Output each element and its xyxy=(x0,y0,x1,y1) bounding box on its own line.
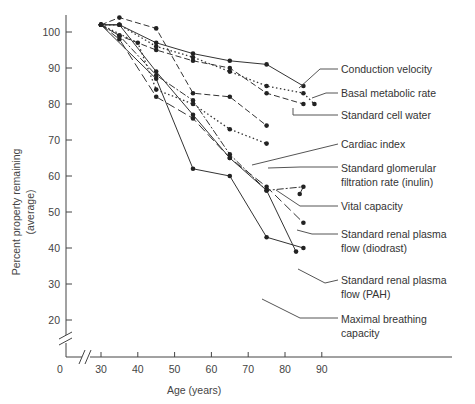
data-point-marker xyxy=(264,91,269,96)
y-tick-label: 100 xyxy=(42,26,60,38)
y-tick-label: 20 xyxy=(48,314,60,326)
leader-line xyxy=(268,167,338,168)
series-2 xyxy=(99,23,306,107)
x-tick-label: 80 xyxy=(279,363,291,375)
data-point-marker xyxy=(301,221,306,226)
legend-entry: Conduction velocity xyxy=(299,63,433,88)
legend-label: Conduction velocity xyxy=(341,63,433,75)
data-point-marker xyxy=(99,23,104,28)
data-point-marker xyxy=(301,246,306,251)
legend-label: Standard cell water xyxy=(341,109,431,121)
series-line xyxy=(101,18,267,126)
data-point-marker xyxy=(228,59,233,64)
series-1 xyxy=(99,23,317,107)
data-point-marker xyxy=(294,249,299,254)
y-tick-label: 90 xyxy=(48,62,60,74)
legend-label: Maximal breathing xyxy=(341,313,427,325)
data-point-marker xyxy=(191,91,196,96)
leader-line xyxy=(297,230,338,234)
data-point-marker xyxy=(136,41,141,46)
y-axis-title-line1: Percent property remaining xyxy=(10,149,22,276)
legend-entry: Standard renal plasmaflow (diodrast) xyxy=(297,228,447,254)
data-point-marker xyxy=(117,23,122,28)
y-tick-label: 50 xyxy=(48,206,60,218)
legend-entry: Vital capacity xyxy=(276,190,403,212)
legend-label: Basal metabolic rate xyxy=(341,87,436,99)
series-line xyxy=(101,25,303,104)
legend-entry: Standard renal plasmaflow (PAH) xyxy=(298,269,447,300)
legend-entry: Basal metabolic rate xyxy=(312,87,436,99)
x-tick-label: 30 xyxy=(95,363,107,375)
data-point-marker xyxy=(301,185,306,190)
data-point-marker xyxy=(264,62,269,67)
line-chart: 2030405060708090100030405060708090Age (y… xyxy=(0,0,475,404)
leader-line xyxy=(252,144,338,165)
data-point-marker xyxy=(154,69,159,74)
x-tick-label: 60 xyxy=(206,363,218,375)
x-tick-label: 40 xyxy=(132,363,144,375)
data-point-marker xyxy=(191,113,196,118)
leader-line xyxy=(276,190,338,206)
data-point-marker xyxy=(191,59,196,64)
data-point-marker xyxy=(301,91,306,96)
data-point-marker xyxy=(301,102,306,107)
series-8 xyxy=(99,23,306,251)
data-point-marker xyxy=(228,127,233,132)
series-3 xyxy=(99,15,269,128)
legend-entry: Cardiac index xyxy=(252,138,406,165)
data-point-marker xyxy=(264,141,269,146)
legend-label: Standard renal plasma xyxy=(341,274,447,286)
leader-line xyxy=(262,299,338,318)
x-tick-label: 50 xyxy=(169,363,181,375)
legend-label: capacity xyxy=(341,327,380,339)
data-point-marker xyxy=(228,156,233,161)
legend-entry: Standard cell water xyxy=(293,108,431,121)
legend-label: flow (diodrast) xyxy=(341,242,407,254)
legend-label: Standard glomerular xyxy=(341,162,437,174)
data-point-marker xyxy=(154,77,159,82)
series-line xyxy=(101,25,303,194)
series-line xyxy=(101,25,303,86)
legend-label: filtration rate (inulin) xyxy=(341,176,433,188)
legend-label: Standard renal plasma xyxy=(341,228,447,240)
series-line xyxy=(101,25,314,104)
x-tick-label: 90 xyxy=(316,363,328,375)
data-point-marker xyxy=(154,95,159,100)
legend-label: Cardiac index xyxy=(341,138,406,150)
data-point-marker xyxy=(264,188,269,193)
data-point-marker xyxy=(264,123,269,128)
data-point-marker xyxy=(312,102,317,107)
legend-entry: Maximal breathingcapacity xyxy=(262,299,427,339)
series-7 xyxy=(99,23,299,254)
y-tick-label: 40 xyxy=(48,242,60,254)
y-axis-title-line2: (average) xyxy=(24,190,36,235)
data-point-marker xyxy=(154,87,159,92)
x-tick-label-origin: 0 xyxy=(57,363,63,375)
y-tick-label: 80 xyxy=(48,98,60,110)
data-point-marker xyxy=(228,174,233,179)
leader-line xyxy=(293,108,338,115)
legend-label: Vital capacity xyxy=(341,200,403,212)
data-point-marker xyxy=(228,95,233,100)
data-point-marker xyxy=(154,48,159,53)
leader-line xyxy=(312,93,338,98)
data-point-marker xyxy=(191,102,196,107)
data-point-marker xyxy=(297,192,302,197)
x-tick-label: 70 xyxy=(242,363,254,375)
data-point-marker xyxy=(117,15,122,20)
leader-line xyxy=(298,269,338,283)
legend-entry: Standard glomerularfiltration rate (inul… xyxy=(268,162,437,188)
y-tick-label: 30 xyxy=(48,278,60,290)
data-point-marker xyxy=(264,235,269,240)
series-group xyxy=(99,15,317,254)
data-point-marker xyxy=(228,66,233,71)
x-axis-title: Age (years) xyxy=(167,384,221,396)
data-point-marker xyxy=(264,84,269,89)
data-point-marker xyxy=(154,26,159,31)
y-tick-label: 60 xyxy=(48,170,60,182)
data-point-marker xyxy=(191,167,196,172)
legend-label: flow (PAH) xyxy=(341,288,390,300)
y-tick-label: 70 xyxy=(48,134,60,146)
